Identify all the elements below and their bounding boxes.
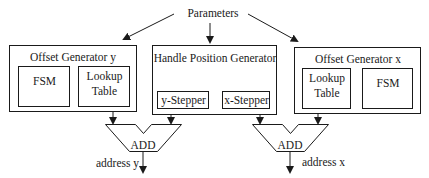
y-stepper-label: y-Stepper [158,94,209,106]
adder-x-label: ADD [275,139,305,151]
lookup-table-x-line1: Lookup [303,72,351,84]
diagram-canvas [0,0,429,178]
offset-generator-y-title: Offset Generator y [10,51,136,63]
x-stepper-label: x-Stepper [223,94,270,106]
offset-generator-x-title: Offset Generator x [295,53,421,65]
arrow-params-to-offset-y [124,14,174,39]
address-x-label: address x [302,156,345,168]
lookup-table-x-line2: Table [303,87,351,99]
lookup-table-y-line1: Lookup [79,70,130,82]
fsm-y-label: FSM [19,75,70,87]
address-y-label: address y [96,157,139,169]
fsm-x-label: FSM [363,77,413,89]
lookup-table-y-line2: Table [79,85,130,97]
parameters-label: Parameters [170,7,256,19]
adder-y-label: ADD [128,139,158,151]
handle-position-generator-title: Handle Position Generator [153,52,277,64]
